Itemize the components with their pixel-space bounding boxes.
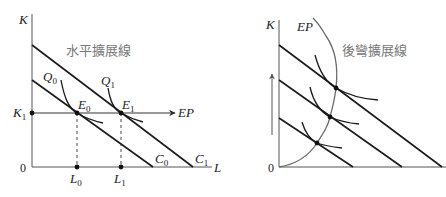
point-equilibrium-middle (328, 115, 333, 120)
label-l1: L1 (113, 171, 126, 188)
label-c0: C0 (155, 151, 169, 168)
isoquant-top (315, 55, 378, 100)
right-panel-backward-bending-expansion: K 0 後彎擴展線 EP (265, 17, 446, 175)
point-equilibrium-top (334, 86, 339, 91)
right-origin-label: 0 (268, 161, 274, 175)
isocost-line-c1 (32, 45, 193, 167)
point-equilibrium-bottom (315, 141, 320, 146)
left-y-axis-label: K (18, 12, 29, 27)
label-q1: Q1 (101, 73, 115, 90)
diagram-stage: K L 0 水平擴展線 Q0 Q1 E0 E1 (0, 0, 446, 197)
point-k1 (30, 111, 35, 116)
label-e1: E1 (121, 97, 134, 114)
left-panel-horizontal-expansion: K L 0 水平擴展線 Q0 Q1 E0 E1 (12, 12, 221, 188)
point-l0 (75, 165, 80, 170)
point-l1 (119, 165, 124, 170)
left-panel-title: 水平擴展線 (66, 43, 131, 58)
isoquant-middle (310, 87, 359, 124)
label-e0: E0 (77, 97, 91, 114)
label-l0: L0 (69, 171, 82, 188)
left-origin-label: 0 (20, 161, 26, 175)
expansion-path-backward-bending (279, 18, 337, 167)
label-q0: Q0 (43, 69, 57, 86)
label-ep-left: EP (177, 105, 194, 120)
left-x-axis-label: L (213, 160, 221, 175)
isocost-line-top (279, 45, 442, 167)
label-ep-right: EP (296, 19, 313, 34)
right-y-axis-label: K (265, 17, 276, 32)
label-c1: C1 (195, 151, 208, 168)
label-k1: K1 (12, 105, 26, 122)
right-panel-title: 後彎擴展線 (342, 43, 407, 58)
